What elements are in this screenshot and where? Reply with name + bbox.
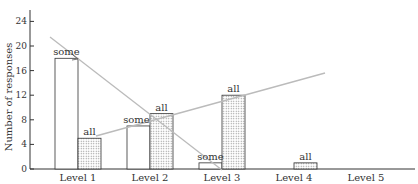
- bar-chart: 04812162024Number of responses someallLe…: [0, 0, 418, 184]
- x-category-label: Level 5: [348, 172, 385, 183]
- bar-all-level-2: [150, 114, 173, 169]
- bar-label-all: all: [299, 151, 311, 162]
- y-tick-label: 16: [16, 66, 28, 76]
- trend-line-all: [96, 73, 325, 136]
- bars: [55, 58, 317, 169]
- bar-some-level-2: [127, 126, 150, 169]
- bar-label-some: some: [123, 114, 150, 125]
- bar-label-all: all: [155, 102, 167, 113]
- bar-some-level-1: [55, 58, 78, 169]
- bar-label-some: some: [53, 46, 80, 57]
- y-tick-label: 24: [16, 16, 28, 26]
- bar-label-some: some: [197, 151, 224, 162]
- x-category-label: Level 3: [204, 172, 241, 183]
- y-tick-label: 0: [21, 164, 27, 174]
- y-tick-label: 8: [21, 115, 27, 125]
- y-axis-title: Number of responses: [3, 43, 14, 152]
- bar-label-all: all: [227, 83, 239, 94]
- x-category-label: Level 1: [60, 172, 97, 183]
- bar-all-level-3: [222, 95, 245, 169]
- y-tick-label: 20: [16, 41, 28, 51]
- x-category-label: Level 2: [132, 172, 169, 183]
- bar-label-all: all: [83, 126, 95, 137]
- bar-all-level-4: [294, 163, 317, 169]
- y-tick-label: 12: [16, 90, 27, 100]
- y-tick-label: 4: [21, 139, 27, 149]
- bar-all-level-1: [78, 138, 101, 169]
- x-category-label: Level 4: [276, 172, 313, 183]
